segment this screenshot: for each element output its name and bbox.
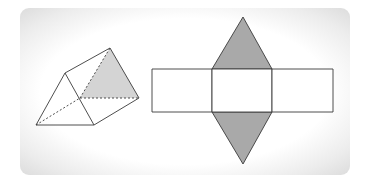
prism-net bbox=[152, 17, 333, 164]
net-top-triangle bbox=[212, 17, 272, 69]
triangular-prism bbox=[36, 48, 139, 125]
shaded-back-face bbox=[80, 48, 139, 98]
net-center-rectangle bbox=[212, 69, 272, 112]
front-triangle-face bbox=[36, 73, 94, 125]
net-right-rectangle bbox=[272, 69, 333, 112]
net-left-rectangle bbox=[152, 69, 212, 112]
prism-and-net-diagram bbox=[0, 0, 365, 183]
net-bottom-triangle bbox=[212, 112, 272, 164]
bottom-right-edge bbox=[94, 98, 139, 125]
hidden-edge bbox=[36, 98, 80, 125]
